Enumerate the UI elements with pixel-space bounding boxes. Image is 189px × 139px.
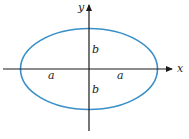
label-b-bottom: b <box>92 83 99 96</box>
ellipse-diagram: x y b b a a <box>0 0 189 139</box>
label-b-top: b <box>92 43 99 56</box>
x-axis-label: x <box>177 62 184 75</box>
y-axis-label: y <box>77 1 85 14</box>
label-a-right: a <box>117 69 124 82</box>
label-a-left: a <box>48 69 55 82</box>
